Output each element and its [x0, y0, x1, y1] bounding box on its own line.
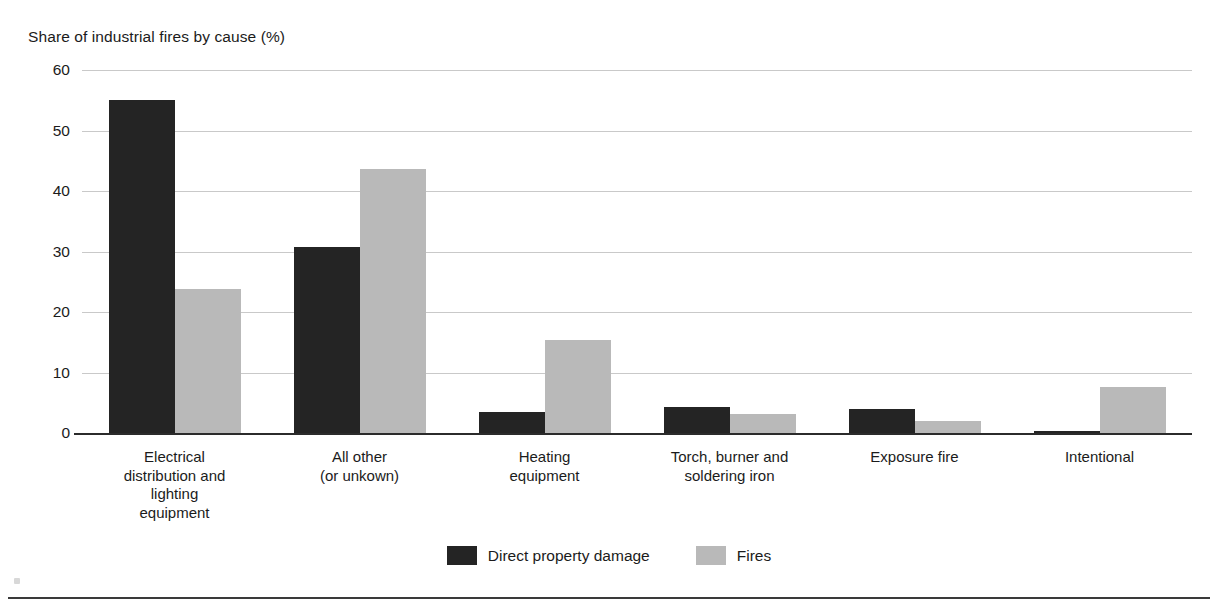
footer-divider [8, 597, 1210, 599]
x-category-label-line: All other [267, 448, 452, 467]
x-axis-line [74, 433, 1192, 435]
bar [294, 247, 360, 433]
y-tick-label: 30 [24, 244, 70, 260]
y-tick-label: 60 [24, 62, 70, 78]
bar [849, 409, 915, 433]
bar [915, 421, 981, 433]
x-category-label: Intentional [1007, 448, 1192, 467]
bar [545, 340, 611, 433]
gridline [82, 312, 1192, 313]
legend-label: Direct property damage [488, 547, 650, 565]
y-tick-label: 0 [24, 425, 70, 441]
x-category-label: Torch, burner andsoldering iron [637, 448, 822, 485]
gridline [82, 191, 1192, 192]
x-category-label: Electricaldistribution andlightingequipm… [82, 448, 267, 522]
x-category-label-line: distribution and [82, 467, 267, 486]
x-category-label-line: Torch, burner and [637, 448, 822, 467]
plot-area [82, 70, 1192, 433]
legend-item: Fires [696, 546, 771, 565]
y-tick-label: 20 [24, 304, 70, 320]
chart-figure: Share of industrial fires by cause (%) 0… [0, 0, 1218, 614]
x-category-label-line: Electrical [82, 448, 267, 467]
y-tick-label: 50 [24, 123, 70, 139]
legend-item: Direct property damage [447, 546, 650, 565]
x-category-label: Heatingequipment [452, 448, 637, 485]
x-category-label-line: lighting [82, 485, 267, 504]
bar [360, 169, 426, 433]
bar [479, 412, 545, 433]
scan-artifact-band [0, 0, 1218, 10]
legend-label: Fires [737, 547, 771, 565]
bar [1100, 387, 1166, 433]
y-tick-label: 40 [24, 183, 70, 199]
scan-smudge [14, 578, 20, 584]
x-category-label-line: Heating [452, 448, 637, 467]
bar [664, 407, 730, 433]
x-category-label: Exposure fire [822, 448, 1007, 467]
x-category-label-line: equipment [452, 467, 637, 486]
bar [109, 100, 175, 433]
legend-swatch [696, 546, 726, 565]
bar [730, 414, 796, 433]
x-category-label-line: (or unkown) [267, 467, 452, 486]
x-category-label-line: Intentional [1007, 448, 1192, 467]
gridline [82, 131, 1192, 132]
x-category-label: All other(or unkown) [267, 448, 452, 485]
chart-legend: Direct property damageFires [0, 546, 1218, 565]
y-axis: 0102030405060 [24, 0, 70, 614]
gridline [82, 70, 1192, 71]
gridline [82, 373, 1192, 374]
x-category-label-line: Exposure fire [822, 448, 1007, 467]
bar [175, 289, 241, 433]
gridline [82, 252, 1192, 253]
y-tick-label: 10 [24, 365, 70, 381]
x-category-label-line: equipment [82, 504, 267, 523]
legend-swatch [447, 546, 477, 565]
x-category-label-line: soldering iron [637, 467, 822, 486]
